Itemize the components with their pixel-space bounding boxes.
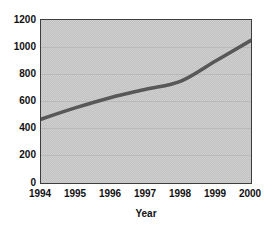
y-tick-label: 1200: [0, 14, 36, 25]
x-tick-label: 1997: [128, 188, 162, 199]
x-tick-label: 1994: [23, 188, 57, 199]
y-tick-label: 600: [0, 95, 36, 106]
series-line: [41, 40, 251, 119]
x-tick-label: 2000: [233, 188, 267, 199]
x-tick-label: 1996: [93, 188, 127, 199]
y-tick-label: 1000: [0, 41, 36, 52]
x-axis-title: Year: [126, 208, 166, 220]
y-tick-label: 400: [0, 122, 36, 133]
x-tick-label: 1995: [58, 188, 92, 199]
x-tick-label: 1999: [198, 188, 232, 199]
chart-svg: [41, 20, 251, 183]
y-tick-label: 800: [0, 68, 36, 79]
plot-area: [40, 19, 252, 184]
x-tick-label: 1998: [163, 188, 197, 199]
y-tick-label: 200: [0, 149, 36, 160]
y-tick-label: 0: [0, 177, 36, 188]
line-chart-figure: 020040060080010001200 199419951996199719…: [0, 0, 278, 230]
